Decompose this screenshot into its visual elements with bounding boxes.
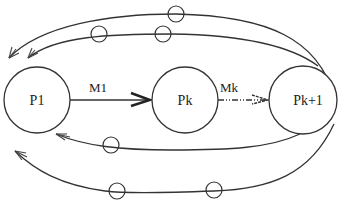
process-diagram: M1 Mk P1 Pk Pk+1: [0, 0, 343, 203]
edge-m1: M1: [70, 80, 150, 106]
token-circle: [103, 137, 119, 153]
arrowhead-icon: [28, 48, 38, 58]
node-label-pk-plus-1: Pk+1: [293, 93, 323, 108]
edge-label-mk: Mk: [220, 80, 239, 95]
feedback-path-bottom-inner: [56, 134, 300, 153]
node-pk: Pk: [152, 67, 218, 133]
token-circle: [206, 182, 222, 198]
node-label-p1: P1: [30, 93, 45, 108]
node-p1: P1: [4, 67, 70, 133]
edge-mk: Mk: [218, 80, 268, 104]
arrowhead-icon: [15, 151, 27, 160]
node-pk-plus-1: Pk+1: [269, 66, 337, 134]
node-label-pk: Pk: [178, 93, 193, 108]
token-circle: [109, 183, 125, 199]
feedback-path-top-inner: [28, 26, 318, 66]
edge-label-m1: M1: [89, 80, 107, 95]
token-circle: [91, 26, 107, 42]
